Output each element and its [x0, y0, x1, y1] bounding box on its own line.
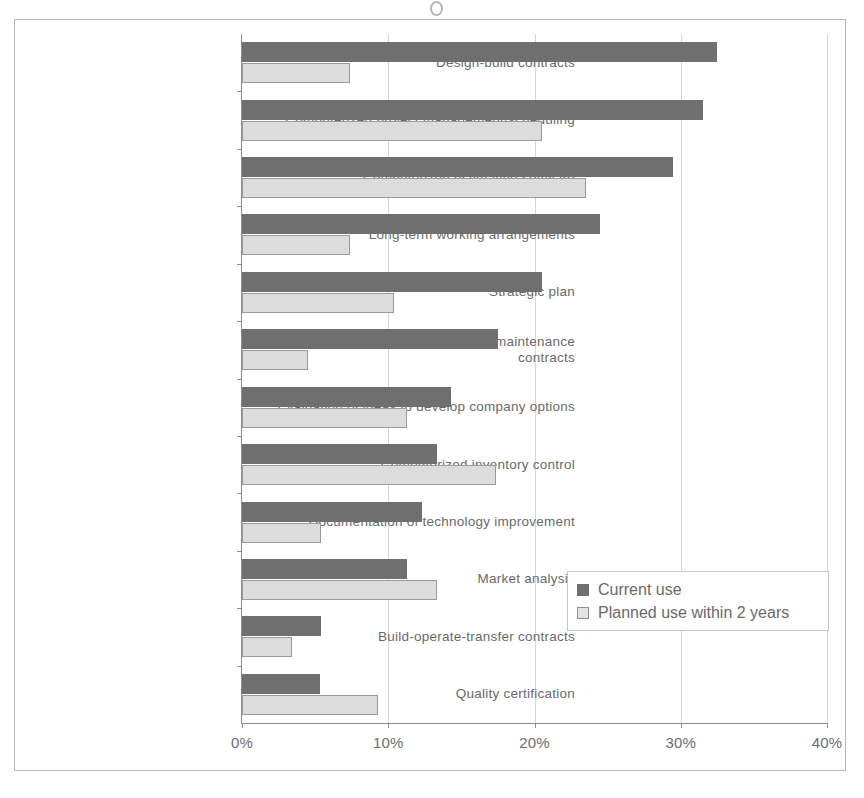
- y-axis-tick: [237, 91, 242, 92]
- y-axis-tick: [237, 379, 242, 380]
- bar-planned-use: [242, 695, 378, 715]
- bar-current-use: [242, 444, 437, 464]
- bar-planned-use: [242, 580, 437, 600]
- bar-planned-use: [242, 235, 350, 255]
- bar-planned-use: [242, 63, 350, 83]
- x-axis-tick-label: 10%: [373, 734, 404, 751]
- bar-current-use: [242, 559, 407, 579]
- bar-current-use: [242, 329, 498, 349]
- scan-artifact: [430, 1, 443, 16]
- y-axis-tick: [237, 493, 242, 494]
- legend-label-current-use: Current use: [598, 581, 682, 599]
- x-axis-tick: [681, 723, 682, 728]
- x-axis-tick: [535, 723, 536, 728]
- legend-item-current-use: Current use: [577, 581, 819, 599]
- x-axis-tick: [827, 723, 828, 728]
- y-axis-tick: [237, 206, 242, 207]
- bar-planned-use: [242, 121, 542, 141]
- x-axis-tick-label: 40%: [812, 734, 843, 751]
- bar-planned-use: [242, 293, 394, 313]
- bar-planned-use: [242, 465, 496, 485]
- bar-planned-use: [242, 523, 321, 543]
- bar-planned-use: [242, 408, 407, 428]
- y-axis-tick: [237, 149, 242, 150]
- y-axis-tick: [237, 608, 242, 609]
- bar-current-use: [242, 100, 703, 120]
- legend-swatch-current-use: [577, 584, 589, 596]
- bar-current-use: [242, 214, 600, 234]
- x-axis-tick-label: 0%: [231, 734, 253, 751]
- x-axis-tick: [242, 723, 243, 728]
- bar-current-use: [242, 387, 451, 407]
- x-axis-tick: [388, 723, 389, 728]
- bar-current-use: [242, 674, 320, 694]
- legend-label-planned-use: Planned use within 2 years: [598, 604, 789, 622]
- bar-current-use: [242, 42, 717, 62]
- bar-current-use: [242, 616, 321, 636]
- x-axis-tick-label: 30%: [665, 734, 696, 751]
- bar-current-use: [242, 157, 673, 177]
- bar-current-use: [242, 502, 422, 522]
- legend-item-planned-use: Planned use within 2 years: [577, 604, 819, 622]
- bar-planned-use: [242, 350, 308, 370]
- y-axis-tick: [237, 321, 242, 322]
- bar-current-use: [242, 272, 542, 292]
- chart-legend: Current use Planned use within 2 years: [567, 571, 829, 631]
- y-axis-tick: [237, 551, 242, 552]
- bar-planned-use: [242, 637, 292, 657]
- y-axis-tick: [237, 264, 242, 265]
- y-axis-tick: [237, 436, 242, 437]
- x-axis-tick-label: 20%: [519, 734, 550, 751]
- y-axis-tick: [237, 666, 242, 667]
- legend-swatch-planned-use: [577, 607, 589, 619]
- bar-planned-use: [242, 178, 586, 198]
- chart-frame: 0%10%20%30%40%Design-build contractsComp…: [14, 19, 846, 771]
